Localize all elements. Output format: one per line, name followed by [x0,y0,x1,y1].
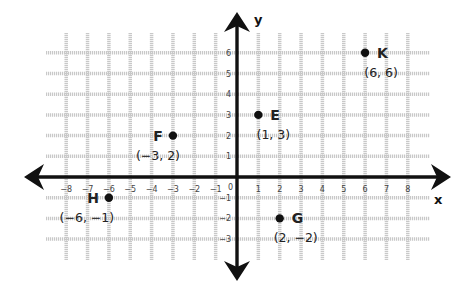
point-name-label: F [153,128,163,144]
point-name-label: H [87,190,99,206]
point-coordinate-label: (−6, −1) [60,210,115,225]
point-dot [276,214,284,222]
point-dot [254,111,262,119]
x-tick-label: −1 [210,185,222,194]
y-tick-label: 5 [226,70,231,79]
point-dot [361,49,369,57]
x-tick-label: −5 [124,185,136,194]
point-name-label: K [377,45,389,61]
x-tick-label: 4 [320,185,325,194]
y-axis-label: y [254,12,263,27]
point-coordinate-label: (2, −2) [274,230,318,245]
y-tick-label: −3 [219,235,231,244]
x-tick-label: 7 [384,185,389,194]
x-tick-label: −4 [146,185,158,194]
x-tick-label: 6 [363,185,368,194]
x-tick-label: −8 [60,185,72,194]
x-tick-label: −6 [103,185,115,194]
y-tick-label: 3 [226,111,231,120]
point-coordinate-label: (6, 6) [364,65,398,80]
y-tick-label: 6 [226,49,231,58]
x-axis-label: x [434,192,443,207]
y-tick-label: 4 [226,90,231,99]
x-tick-label: 2 [277,185,282,194]
y-tick-label: 1 [226,152,231,161]
point-coordinate-label: (−3, 2) [136,148,180,163]
coordinate-plane: x y 0 −8−7−6−5−4−3−2−112345678654321−1−2… [0,0,455,289]
y-tick-label: 2 [226,132,231,141]
origin-label: 0 [228,183,233,192]
x-tick-label: 3 [299,185,304,194]
x-tick-label: −3 [167,185,179,194]
x-tick-label: −2 [188,185,200,194]
y-tick-label: −2 [219,214,231,223]
point-name-label: E [270,107,280,123]
x-tick-label: 8 [405,185,410,194]
y-tick-label: −1 [219,194,231,203]
x-tick-label: 5 [341,185,346,194]
point-coordinate-label: (1, 3) [257,127,291,142]
point-dot [105,194,113,202]
x-tick-label: 1 [256,185,261,194]
point-dot [169,131,177,139]
point-name-label: G [292,210,304,226]
point-e: E(1, 3) [254,107,290,142]
point-k: K(6, 6) [361,45,398,80]
